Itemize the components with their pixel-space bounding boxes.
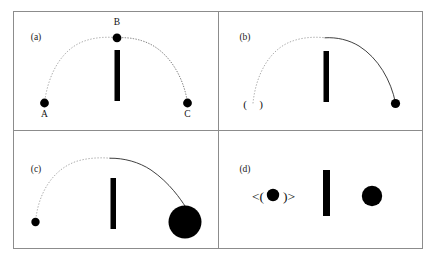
panel-b-ball-right (391, 99, 400, 108)
panel-a-point-b (113, 33, 122, 42)
panel-a-label: (a) (31, 32, 42, 43)
panel-a-point-c (183, 99, 192, 108)
panel-c-ball-large-right (169, 206, 202, 239)
panel-d-right-bracket: )> (283, 189, 295, 204)
panel-d-occluder-bar (323, 170, 330, 216)
panel-d-ball-right (362, 186, 382, 206)
panel-a-label-c: C (184, 109, 190, 119)
panel-d-label: (d) (239, 164, 250, 175)
four-panel-figure: (a) A B C (b) ( ) (c) (0, 0, 436, 265)
panel-a-point-a (40, 99, 49, 108)
figure-container: (a) A B C (b) ( ) (c) (0, 0, 436, 265)
panel-c-label: (c) (31, 164, 42, 175)
panel-d-bracketed-ball (267, 189, 279, 201)
panel-a-label-b: B (114, 17, 120, 27)
panel-c-ball-small-left (31, 218, 39, 226)
panel-b-occluder-bar (324, 51, 330, 102)
panel-b-left-paren: ( (243, 98, 247, 111)
panel-b-label: (b) (239, 32, 250, 43)
panel-a-occluder-bar (115, 50, 121, 101)
panel-c-occluder-bar (111, 178, 117, 229)
panel-d-left-bracket: <( (252, 189, 265, 204)
panel-b-right-paren: ) (259, 98, 263, 111)
panel-a-label-a: A (41, 109, 48, 119)
